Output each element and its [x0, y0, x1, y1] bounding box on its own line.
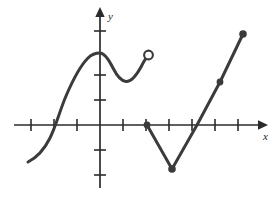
closed-dot-marker-start — [144, 122, 151, 129]
graph-canvas: y x — [0, 0, 278, 198]
figure-background — [0, 0, 278, 198]
closed-dot-marker-mid — [217, 79, 224, 86]
x-axis-label: x — [262, 130, 268, 142]
open-circle-endpoint-marker — [144, 51, 153, 60]
graph-figure: y x — [0, 0, 278, 198]
y-axis-label: y — [107, 10, 113, 22]
closed-dot-marker-vertex — [168, 165, 176, 173]
closed-dot-marker-end — [239, 30, 247, 38]
